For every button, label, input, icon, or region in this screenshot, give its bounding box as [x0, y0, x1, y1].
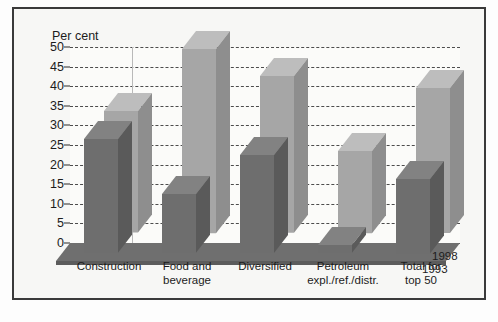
bar-1993-4	[396, 179, 430, 253]
y-tick-label: 30	[30, 119, 64, 132]
y-tick-label: 25	[30, 139, 64, 152]
legend-entry-1998: 1998	[432, 250, 470, 263]
y-tick-label: 40	[30, 80, 64, 93]
y-tick-label: 5	[30, 217, 64, 230]
y-axis: 05101520253035404550	[20, 47, 64, 243]
gridline	[70, 47, 460, 48]
x-axis-labels: ConstructionFood andbeverageDiversifiedP…	[70, 259, 470, 303]
bar-1993-0	[84, 139, 118, 253]
y-tick-label: 10	[30, 198, 64, 211]
chart-legend: 1998 1993	[422, 250, 470, 276]
chart-figure: Per cent 05101520253035404550 Constructi…	[0, 0, 498, 322]
y-tick-label: 45	[30, 60, 64, 73]
x-axis-label-line: beverage	[138, 273, 236, 287]
y-tick-label: 50	[30, 41, 64, 54]
bar-1998-3	[338, 151, 372, 233]
bar-1993-2	[240, 155, 274, 253]
chart-frame: Per cent 05101520253035404550 Constructi…	[12, 7, 486, 300]
legend-entry-1993: 1993	[422, 263, 470, 276]
plot-area	[70, 47, 460, 255]
bar-1993-1	[162, 194, 196, 253]
y-tick-label: 15	[30, 178, 64, 191]
bar-1993-3	[318, 245, 352, 253]
y-tick-label: 20	[30, 158, 64, 171]
y-tick-label: 35	[30, 100, 64, 113]
